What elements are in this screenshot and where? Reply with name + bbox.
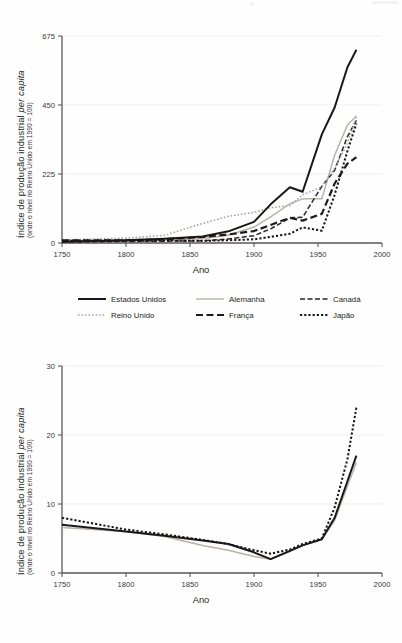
legend-label-estados-unidos: Estados Unidos	[111, 295, 166, 304]
svg-text:1850: 1850	[182, 580, 199, 589]
legend-item-alemanha[interactable]: Alemanha	[196, 291, 300, 307]
svg-text:1750: 1750	[54, 250, 71, 259]
legend-swatch-japao	[300, 310, 328, 320]
legend-swatch-alemanha	[196, 294, 224, 304]
figure-top: 0225450675175018001850190019502000 Índic…	[0, 0, 402, 330]
legend-swatch-estados-unidos	[78, 294, 106, 304]
y-axis-label-main-bottom: Índice de produção industrial	[15, 450, 26, 575]
chart-canvas-bottom: 0102030175018001850190019502000	[0, 330, 402, 620]
x-axis-label-bottom: Ano	[0, 594, 402, 605]
legend-label-reino-unido: Reino Unido	[111, 311, 154, 320]
legend-item-reino-unido[interactable]: Reino Unido	[78, 307, 196, 323]
svg-text:1750: 1750	[54, 580, 71, 589]
legend-swatch-reino-unido	[78, 310, 106, 320]
chart-canvas-top: 0225450675175018001850190019502000	[0, 0, 402, 290]
y-axis-label-sub-bottom: (onde o nível no Reino Unido em 1990 = 1…	[27, 407, 34, 575]
x-axis-label-top: Ano	[0, 264, 402, 275]
svg-text:30: 30	[47, 362, 55, 371]
legend-item-estados-unidos[interactable]: Estados Unidos	[78, 291, 196, 307]
svg-text:10: 10	[47, 500, 55, 509]
svg-text:1800: 1800	[118, 580, 135, 589]
plot-area-bottom: 0102030175018001850190019502000	[0, 330, 402, 620]
y-axis-label-top: Índice de produção industrial per capita…	[16, 70, 34, 238]
legend-label-franca: França	[229, 311, 254, 320]
legend-top: Estados Unidos Alemanha Canadá Reino Uni…	[0, 291, 402, 323]
legend-label-canada: Canadá	[333, 295, 361, 304]
y-axis-label-main-top: Índice de produção industrial	[15, 113, 26, 238]
legend-label-alemanha: Alemanha	[229, 295, 265, 304]
y-axis-label-bottom: Índice de produção industrial per capita…	[16, 407, 34, 575]
svg-text:2000: 2000	[374, 250, 391, 259]
svg-text:1900: 1900	[246, 580, 263, 589]
legend-swatch-canada	[300, 294, 328, 304]
figure-bottom: 0102030175018001850190019502000 Índice d…	[0, 330, 402, 643]
y-axis-label-italic-top: per capita	[15, 70, 26, 112]
svg-text:0: 0	[51, 239, 55, 248]
y-axis-label-sub-top: (onde o nível no Reino Unido em 1990 = 1…	[27, 70, 34, 238]
y-axis-label-italic-bottom: per capita	[15, 407, 26, 449]
legend-item-japao[interactable]: Japão	[300, 307, 402, 323]
svg-text:450: 450	[42, 101, 55, 110]
svg-text:225: 225	[42, 170, 55, 179]
svg-text:0: 0	[51, 569, 55, 578]
svg-text:1900: 1900	[246, 250, 263, 259]
legend-label-japao: Japão	[333, 311, 355, 320]
legend-item-canada[interactable]: Canadá	[300, 291, 402, 307]
svg-text:1950: 1950	[310, 580, 327, 589]
svg-text:1850: 1850	[182, 250, 199, 259]
svg-text:1800: 1800	[118, 250, 135, 259]
legend-swatch-franca	[196, 310, 224, 320]
svg-text:675: 675	[42, 32, 55, 41]
plot-area-top: 0225450675175018001850190019502000	[0, 0, 402, 290]
svg-text:2000: 2000	[374, 580, 391, 589]
legend-item-franca[interactable]: França	[196, 307, 300, 323]
svg-text:1950: 1950	[310, 250, 327, 259]
svg-text:20: 20	[47, 431, 55, 440]
